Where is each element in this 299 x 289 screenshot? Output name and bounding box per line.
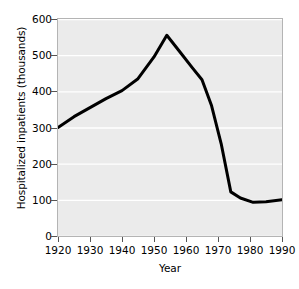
chart-figure: Hospitalized inpatients (thousands) 600 …	[0, 0, 299, 289]
x-tick-mark	[90, 237, 91, 242]
y-tick-label: 300	[26, 123, 52, 133]
y-tick-label: 200	[26, 159, 52, 169]
y-tick-label: 600	[26, 14, 52, 24]
x-axis-title: Year	[57, 262, 283, 274]
data-line-hospitalized-inpatients	[58, 35, 282, 202]
x-tick-mark	[122, 237, 123, 242]
x-tick-mark	[218, 237, 219, 242]
gridlines	[58, 20, 282, 237]
y-tick-label: 500	[26, 50, 52, 60]
x-tick-mark	[250, 237, 251, 242]
y-tick-label: 0	[26, 231, 52, 241]
x-tick-mark	[282, 237, 283, 242]
x-tick-mark	[154, 237, 155, 242]
y-tick-label: 100	[26, 195, 52, 205]
plot-area	[57, 18, 283, 237]
x-tick-mark	[186, 237, 187, 242]
x-tick-mark	[58, 237, 59, 242]
y-tick-label: 400	[26, 86, 52, 96]
chart-canvas	[58, 19, 282, 236]
x-tick-label: 1990	[262, 244, 299, 256]
